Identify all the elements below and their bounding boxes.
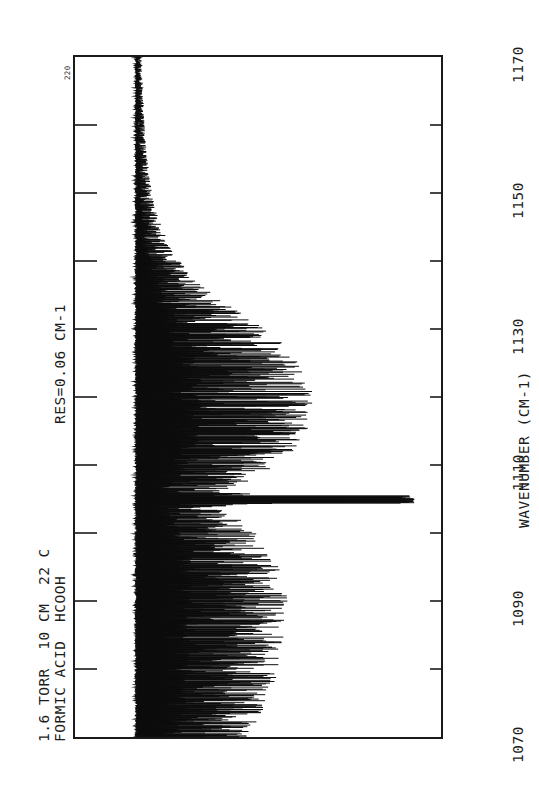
- x-tick-label-1150: 1150: [510, 182, 526, 219]
- x-axis-title: WAVENUMBER (CM-1): [516, 371, 532, 528]
- figure-subtitle: 1.6 TORR 10 CM 22 C: [36, 548, 52, 742]
- spectrum-figure: FORMIC ACID HCOOH 1.6 TORR 10 CM 22 C RE…: [0, 0, 539, 790]
- x-tick-label-1130: 1130: [510, 318, 526, 355]
- x-tick-label-1170: 1170: [510, 46, 526, 83]
- plot-frame: [73, 55, 443, 739]
- scale-marker-label: 220: [63, 66, 72, 80]
- x-tick-label-1070: 1070: [510, 726, 526, 763]
- figure-title: FORMIC ACID HCOOH: [52, 576, 68, 742]
- resolution-annotation: RES=0.06 CM-1: [52, 304, 68, 424]
- x-tick-label-1090: 1090: [510, 590, 526, 627]
- spectrum-trace-canvas: [75, 57, 441, 737]
- x-tick-label-1110: 1110: [510, 454, 526, 491]
